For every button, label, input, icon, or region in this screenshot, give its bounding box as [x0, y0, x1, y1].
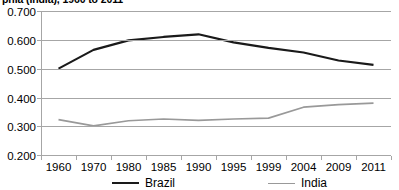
x-axis-tick-mark — [321, 156, 322, 160]
x-axis-tick-label: 1995 — [221, 161, 247, 173]
y-axis-tick-label: 0.700 — [0, 7, 36, 19]
legend-swatch-india — [268, 183, 295, 184]
x-axis-tick-mark — [76, 156, 77, 160]
y-axis-labels: 0.700 0.600 0.500 0.400 0.300 0.200 — [0, 0, 36, 190]
x-axis-tick-mark — [251, 156, 252, 160]
x-axis-tick-mark — [391, 156, 392, 160]
x-axis-tick-label: 1970 — [81, 161, 107, 173]
legend-item-brazil: Brazil — [112, 176, 175, 190]
x-axis-tick-mark — [216, 156, 217, 160]
x-axis-tick-label: 1980 — [116, 161, 142, 173]
y-axis-tick-label: 0.500 — [0, 65, 36, 77]
y-axis-tick-label: 0.600 — [0, 36, 36, 48]
legend-label-brazil: Brazil — [145, 177, 175, 189]
x-axis-tick-mark — [41, 156, 42, 160]
series-line-india — [59, 103, 374, 126]
plot-area — [41, 11, 391, 155]
line-chart: phia (India), 1960 to 2011 0.700 0.600 0… — [0, 0, 399, 190]
x-axis-tick-mark — [181, 156, 182, 160]
legend-label-india: India — [301, 177, 327, 189]
gridline — [41, 69, 391, 70]
x-axis-tick-label: 1960 — [46, 161, 72, 173]
y-axis-tick-label: 0.400 — [0, 94, 36, 106]
gridline — [41, 126, 391, 127]
x-axis-tick-mark — [111, 156, 112, 160]
x-axis-tick-label: 2009 — [326, 161, 352, 173]
y-axis-tick-label: 0.200 — [0, 151, 36, 163]
legend-swatch-brazil — [112, 182, 139, 184]
series-lines — [41, 11, 391, 155]
x-axis-tick-label: 2004 — [291, 161, 317, 173]
x-axis-tick-label: 1999 — [256, 161, 282, 173]
y-axis-tick-label: 0.300 — [0, 122, 36, 134]
gridline — [41, 98, 391, 99]
x-axis-tick-mark — [286, 156, 287, 160]
x-axis-tick-label: 1990 — [186, 161, 212, 173]
x-axis-tick-label: 2011 — [361, 161, 386, 173]
chart-legend: Brazil India — [0, 176, 399, 190]
legend-item-india: India — [268, 176, 327, 190]
gridline — [41, 40, 391, 41]
x-axis-tick-mark — [356, 156, 357, 160]
gridline — [41, 11, 391, 12]
x-axis-tick-mark — [146, 156, 147, 160]
x-axis-tick-label: 1985 — [151, 161, 177, 173]
